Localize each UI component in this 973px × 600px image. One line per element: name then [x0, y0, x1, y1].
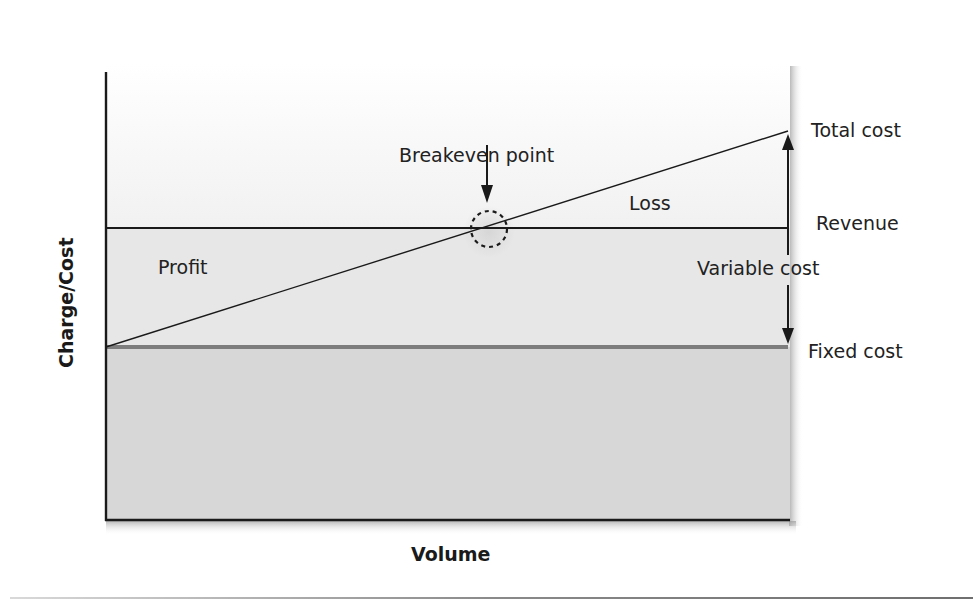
- chart-svg: [0, 0, 973, 600]
- frame-shadow-right: [789, 66, 803, 526]
- x-axis-title: Volume: [411, 545, 490, 564]
- loss-label: Loss: [629, 194, 671, 213]
- variable-cost-label: Variable cost: [697, 259, 819, 278]
- frame-shadow-bottom: [106, 521, 796, 535]
- breakeven-diagram: Breakeven point Loss Profit Variable cos…: [0, 0, 973, 600]
- profit-label: Profit: [158, 258, 208, 277]
- footer-divider: [10, 597, 973, 599]
- revenue-label: Revenue: [816, 214, 899, 233]
- breakeven-label: Breakeven point: [399, 146, 554, 165]
- fixed-cost-label: Fixed cost: [808, 342, 903, 361]
- lower-region: [106, 347, 790, 520]
- middle-region: [106, 228, 790, 347]
- y-axis-title: Charge/Cost: [57, 238, 76, 368]
- total-cost-label: Total cost: [811, 121, 901, 140]
